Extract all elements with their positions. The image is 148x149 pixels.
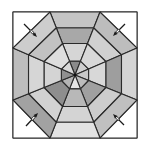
fold-diagram <box>0 0 148 149</box>
web-cell-right-ring-3 <box>122 48 138 100</box>
web-cell-top-ring-3 <box>50 12 100 28</box>
center-point <box>74 74 77 77</box>
web-cell-left-ring-3 <box>13 48 29 100</box>
web-cell-bottom-ring-3 <box>50 122 100 138</box>
